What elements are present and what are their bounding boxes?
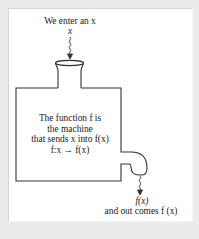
input-caption: We enter an x xyxy=(0,16,140,26)
machine-line-4: f:x → f(x) xyxy=(20,145,120,156)
input-arrow-icon xyxy=(68,37,73,59)
machine-description: The function f is the machine that sends… xyxy=(20,113,120,155)
machine-line-1: The function f is xyxy=(20,113,120,124)
output-symbol: f(x) xyxy=(128,196,156,206)
machine-line-3: that sends x into f(x) xyxy=(20,134,120,145)
input-symbol: x xyxy=(62,26,78,36)
output-arrow-icon xyxy=(138,176,143,195)
machine-line-2: the machine xyxy=(20,124,120,135)
output-caption: and out comes f (x) xyxy=(96,206,186,216)
